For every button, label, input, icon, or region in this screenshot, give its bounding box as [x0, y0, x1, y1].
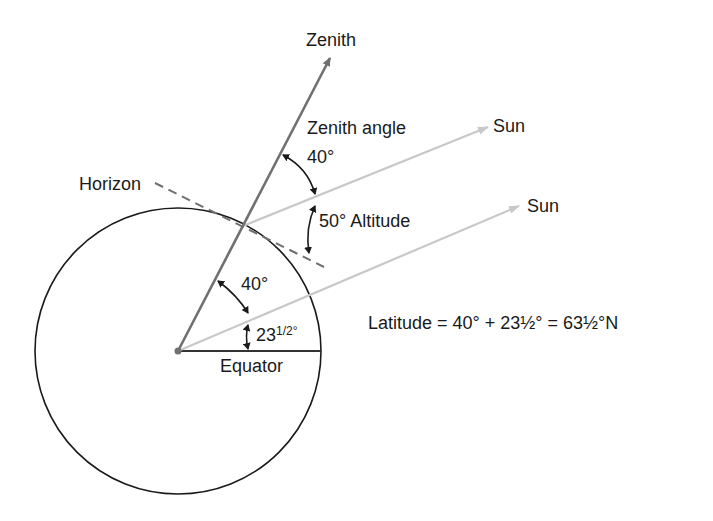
horizon-label: Horizon — [79, 174, 141, 194]
zenith-line — [178, 58, 330, 351]
zenith-angle-label: Zenith angle — [307, 118, 406, 138]
declination-label: 231/2° — [256, 324, 298, 345]
altitude-label: 50° Altitude — [319, 211, 410, 231]
sun-label-upper: Sun — [493, 116, 525, 136]
earth-center-dot — [175, 348, 182, 355]
latitude-diagram: Zenith Zenith angle 40° Sun Sun Horizon … — [0, 0, 713, 521]
latitude-formula: Latitude = 40° + 23½° = 63½°N — [368, 313, 618, 333]
sun-label-lower: Sun — [527, 196, 559, 216]
zenith-angle-value: 40° — [307, 147, 334, 167]
zenith-label: Zenith — [306, 30, 356, 50]
horizon-line — [155, 183, 324, 267]
declination-arc — [247, 325, 249, 349]
center-angle-label: 40° — [241, 274, 268, 294]
equator-label: Equator — [220, 356, 283, 376]
altitude-arc — [308, 206, 315, 253]
